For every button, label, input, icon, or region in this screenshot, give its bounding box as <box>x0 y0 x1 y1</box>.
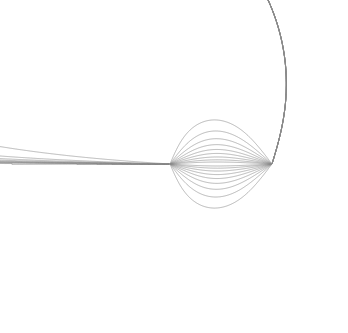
field-line-canvas <box>0 0 348 333</box>
field-line-figure <box>0 0 348 333</box>
